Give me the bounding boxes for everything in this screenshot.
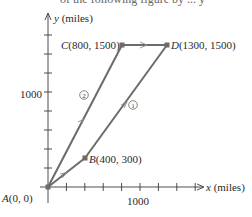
- route-1-marker: 1: [129, 101, 138, 110]
- label-point-D: D(1300, 1500): [170, 39, 236, 52]
- point-D: [165, 43, 170, 48]
- y-tick-label-1000: 1000: [20, 88, 43, 100]
- svg-text:2: 2: [82, 92, 86, 100]
- svg-text:1: 1: [131, 102, 135, 110]
- label-point-A: A(0, 0): [1, 192, 33, 205]
- route-2-marker: 2: [80, 91, 89, 100]
- route-diagram: y (miles) x (miles) 1000 1000 1 2 A(0, 0…: [0, 0, 252, 217]
- y-axis-label: y (miles): [53, 12, 93, 25]
- route-2: [48, 45, 167, 187]
- x-axis: [40, 183, 204, 191]
- route-1: [48, 45, 167, 187]
- x-axis-label: x (miles): [205, 181, 245, 194]
- point-C: [120, 43, 125, 48]
- point-A: [46, 185, 51, 190]
- label-point-C: C(800, 1500): [61, 39, 120, 52]
- y-axis: [44, 13, 52, 203]
- points: [46, 43, 170, 190]
- point-B: [83, 156, 88, 161]
- label-point-B: B(400, 300): [89, 153, 142, 166]
- x-tick-label-1000: 1000: [127, 195, 150, 207]
